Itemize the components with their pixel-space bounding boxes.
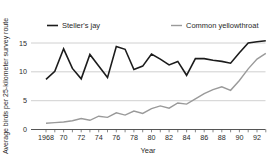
x-tick-label-76: 76: [112, 133, 120, 142]
x-tick-label-78: 78: [130, 133, 138, 142]
x-tick-label-92: 92: [253, 133, 261, 142]
x-tick-labels: 1968707274767880828486889092: [38, 133, 261, 142]
x-tick-label-82: 82: [165, 133, 173, 142]
bird-survey-line-chart: Average birds per 25-kilometer survey ro…: [0, 0, 270, 168]
y-tick-label-10: 10: [19, 67, 27, 76]
y-tick-label-5: 5: [23, 96, 27, 105]
series-line-steller-s-jay: [46, 41, 266, 80]
x-tick-label-90: 90: [235, 133, 243, 142]
legend-label-common-yellowthroat: Common yellowthroat: [186, 21, 259, 30]
series-line-common-yellowthroat: [46, 53, 266, 123]
chart-canvas: Average birds per 25-kilometer survey ro…: [0, 0, 270, 168]
gridlines: [31, 43, 266, 101]
legend: Steller's jay Common yellowthroat: [47, 21, 259, 30]
data-series: [46, 41, 266, 124]
x-tick-label-86: 86: [200, 133, 208, 142]
x-tick-label-70: 70: [60, 133, 68, 142]
y-tick-label-15: 15: [19, 39, 27, 48]
x-axis-title: Year: [140, 146, 156, 155]
x-tick-label-80: 80: [148, 133, 156, 142]
x-tick-label-72: 72: [77, 133, 85, 142]
x-tick-label-1968: 1968: [38, 133, 54, 142]
x-tick-label-74: 74: [95, 133, 103, 142]
y-tick-label-0: 0: [23, 125, 27, 134]
legend-label-stellers-jay: Steller's jay: [62, 21, 100, 30]
x-tick-label-84: 84: [183, 133, 191, 142]
y-axis-title: Average birds per 25-kilometer survey ro…: [2, 18, 10, 154]
y-tick-labels: 051015: [19, 39, 27, 135]
x-tick-label-88: 88: [218, 133, 226, 142]
